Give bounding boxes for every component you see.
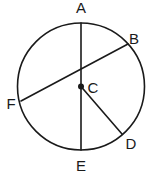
point-label-c: C [88, 79, 99, 96]
point-label-a: A [76, 0, 86, 16]
point-label-e: E [76, 157, 86, 174]
geometry-figure: A B C D E F [0, 0, 149, 182]
diameter-f-b [21, 44, 128, 101]
point-label-d: D [126, 135, 137, 152]
circle-diagram: A B C D E F [0, 0, 149, 182]
point-label-f: F [6, 95, 15, 112]
center-point-dot [78, 84, 84, 90]
point-label-b: B [129, 30, 139, 47]
